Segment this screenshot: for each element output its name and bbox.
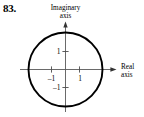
real-axis-label-line2: axis	[121, 71, 133, 79]
figure-container: 83. –1 1 1 –1 Imaginary axis Real axis	[0, 0, 144, 117]
complex-plane-plot: –1 1 1 –1 Imaginary axis Real axis	[0, 0, 144, 117]
imaginary-axis-label-line2: axis	[60, 12, 72, 20]
tick-label-real-negative-one: –1	[47, 74, 56, 83]
tick-label-imaginary-negative-one: –1	[52, 83, 61, 92]
real-axis-arrowhead-icon	[110, 67, 116, 71]
tick-label-real-positive-one: 1	[78, 74, 82, 83]
imaginary-axis-label-line1: Imaginary	[51, 4, 81, 12]
real-axis-label-line1: Real	[121, 63, 134, 71]
tick-label-imaginary-positive-one: 1	[57, 47, 61, 56]
imaginary-axis-arrowhead-icon	[63, 22, 67, 28]
